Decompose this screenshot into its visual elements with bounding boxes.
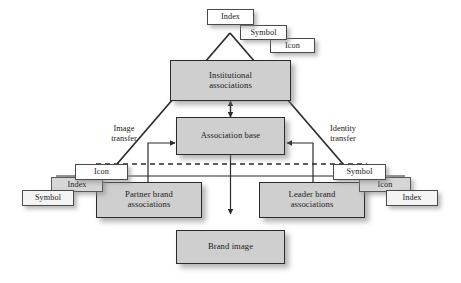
partner-line1: Partner brand [125, 189, 173, 199]
node-partner-brand-associations: Partner brand associations [96, 182, 202, 218]
identity-transfer-line2: transfer [330, 134, 356, 143]
annotation-identity-transfer: Identity transfer [316, 124, 370, 144]
node-institutional-associations: Institutional associations [170, 60, 291, 101]
tag-top-symbol: Symbol [240, 25, 287, 40]
brand-association-diagram: Institutional associations Association b… [0, 0, 461, 283]
tag-top-index: Index [207, 9, 254, 25]
leader-line1: Leader brand [289, 189, 336, 199]
tag-left-icon: Icon [75, 164, 128, 180]
image-transfer-line2: transfer [111, 134, 137, 143]
brand-image-label: Brand image [206, 242, 255, 252]
partner-line2: associations [128, 199, 171, 209]
institutional-line2: associations [209, 80, 252, 90]
image-transfer-line1: Image [114, 124, 135, 133]
identity-transfer-line1: Identity [330, 124, 356, 133]
tag-right-index: Index [386, 190, 438, 206]
node-brand-image: Brand image [176, 230, 285, 264]
tag-right-symbol: Symbol [333, 164, 386, 180]
tag-left-symbol: Symbol [22, 190, 74, 206]
annotation-image-transfer: Image transfer [99, 124, 149, 144]
institutional-line1: Institutional [209, 70, 252, 80]
node-association-base: Association base [176, 117, 285, 155]
leader-line2: associations [291, 199, 334, 209]
association-base-label: Association base [199, 131, 263, 141]
node-leader-brand-associations: Leader brand associations [259, 182, 365, 218]
tag-top-icon: Icon [270, 38, 315, 53]
